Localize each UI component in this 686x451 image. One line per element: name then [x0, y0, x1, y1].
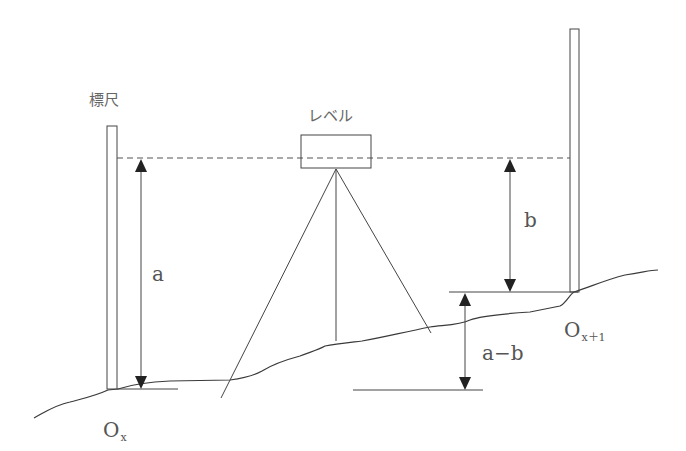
tripod-leg-left — [221, 169, 336, 398]
arrowhead-up-icon — [135, 159, 147, 172]
tripod-leg-right — [336, 169, 431, 333]
point-ox-main: O — [103, 418, 119, 442]
arrowhead-down-icon — [504, 279, 516, 292]
arrowhead-up-icon — [459, 293, 471, 306]
level-instrument — [301, 135, 371, 168]
point-ox1-label: Ox＋1 — [564, 318, 606, 344]
diagram-canvas — [0, 0, 686, 451]
left-staff — [107, 126, 117, 389]
level-label: レベル — [308, 104, 353, 125]
arrowhead-up-icon — [504, 159, 516, 172]
right-staff — [570, 29, 579, 292]
staff-label: 標尺 — [89, 88, 119, 109]
a-label: a — [152, 262, 164, 286]
point-ox-label: Ox — [103, 418, 127, 444]
arrowhead-down-icon — [459, 377, 471, 390]
point-ox1-subscript: x＋1 — [581, 331, 605, 344]
leveling-diagram: 標尺 レベル a b a−b Ox Ox＋1 — [0, 0, 686, 451]
b-label: b — [524, 208, 537, 232]
point-ox1-main: O — [564, 318, 580, 342]
a-minus-b-label: a−b — [482, 341, 523, 365]
point-ox-subscript: x — [120, 431, 126, 444]
